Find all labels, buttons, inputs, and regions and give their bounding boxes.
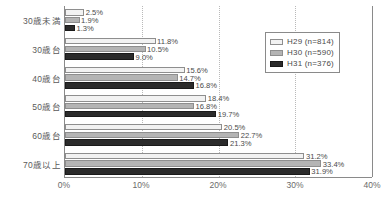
bar	[65, 74, 178, 80]
bar	[65, 124, 222, 130]
chart-screenshot: 30歳未満2.5%1.9%1.3%30歳台11.8%10.5%9.0%40歳台1…	[0, 0, 384, 202]
value-label: 19.7%	[216, 109, 239, 118]
legend-swatch-h29	[270, 39, 283, 45]
bar	[65, 53, 134, 59]
legend-label-h31: H31 (n=376)	[287, 59, 334, 68]
bar-row: 20.5%	[65, 124, 372, 130]
legend-label-h30: H30 (n=590)	[287, 48, 334, 57]
bar-row: 31.9%	[65, 168, 372, 174]
legend-swatch-h31	[270, 61, 283, 67]
bar-group: 50歳台18.4%16.8%19.7%	[65, 92, 372, 121]
bar	[65, 67, 185, 73]
bar-row: 18.4%	[65, 95, 372, 101]
bar-row: 33.4%	[65, 160, 372, 166]
legend-item: H29 (n=814)	[270, 36, 334, 47]
category-label: 50歳台	[1, 100, 61, 112]
bar	[65, 46, 146, 52]
bar	[65, 17, 80, 23]
value-label: 31.9%	[310, 167, 333, 176]
value-label: 21.3%	[228, 138, 251, 147]
bar-row: 31.2%	[65, 153, 372, 159]
bar-group: 60歳台20.5%22.7%21.3%	[65, 121, 372, 150]
x-tick-label: 20%	[209, 180, 226, 190]
bar	[65, 160, 321, 166]
bar-row: 21.3%	[65, 139, 372, 145]
bar	[65, 153, 304, 159]
legend-item: H31 (n=376)	[270, 58, 334, 69]
bar-row: 16.8%	[65, 103, 372, 109]
legend: H29 (n=814) H30 (n=590) H31 (n=376)	[265, 32, 340, 73]
legend-swatch-h30	[270, 50, 283, 56]
bar	[65, 38, 156, 44]
gridline	[372, 6, 373, 177]
legend-label-h29: H29 (n=814)	[287, 37, 334, 46]
bar-group: 30歳未満2.5%1.9%1.3%	[65, 6, 372, 35]
bar	[65, 95, 206, 101]
category-label: 60歳台	[1, 129, 61, 141]
x-tick-label: 40%	[363, 180, 380, 190]
legend-item: H30 (n=590)	[270, 47, 334, 58]
category-label: 30歳台	[1, 43, 61, 55]
bar	[65, 111, 216, 117]
x-tick-label: 0%	[58, 180, 70, 190]
bar	[65, 168, 310, 174]
bar-row: 16.8%	[65, 82, 372, 88]
bar	[65, 132, 239, 138]
bar-row: 1.3%	[65, 25, 372, 31]
value-label: 1.3%	[75, 23, 94, 32]
bar	[65, 82, 194, 88]
bar-group: 70歳以上31.2%33.4%31.9%	[65, 149, 372, 178]
value-label: 16.8%	[194, 81, 217, 90]
value-label: 9.0%	[134, 52, 153, 61]
x-tick-label: 30%	[286, 180, 303, 190]
bar-row: 1.9%	[65, 17, 372, 23]
bar-row: 2.5%	[65, 9, 372, 15]
bar	[65, 9, 84, 15]
bar-row: 19.7%	[65, 111, 372, 117]
bar	[65, 103, 194, 109]
category-label: 40歳台	[1, 72, 61, 84]
bar-row: 22.7%	[65, 132, 372, 138]
bar-row: 14.7%	[65, 74, 372, 80]
category-label: 70歳以上	[1, 158, 61, 170]
category-label: 30歳未満	[1, 14, 61, 26]
value-label: 16.8%	[194, 102, 217, 111]
x-tick-label: 10%	[132, 180, 149, 190]
bar	[65, 139, 228, 145]
bar	[65, 25, 75, 31]
